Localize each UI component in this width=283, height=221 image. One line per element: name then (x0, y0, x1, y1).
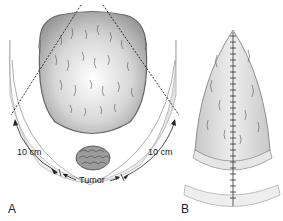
left-distance-label: 10 cm (17, 147, 42, 157)
panel-label-a: A (8, 202, 16, 216)
right-distance-label: 10 cm (148, 147, 173, 157)
panel-label-b: B (181, 202, 189, 216)
lower-skin-b (184, 185, 280, 207)
scrotum (39, 12, 146, 134)
diagram-canvas (0, 0, 283, 221)
tumor (76, 146, 110, 170)
tumor-label: Tumor (79, 175, 105, 185)
panel-b-illustration (184, 30, 280, 207)
panel-a-illustration (9, 5, 179, 185)
